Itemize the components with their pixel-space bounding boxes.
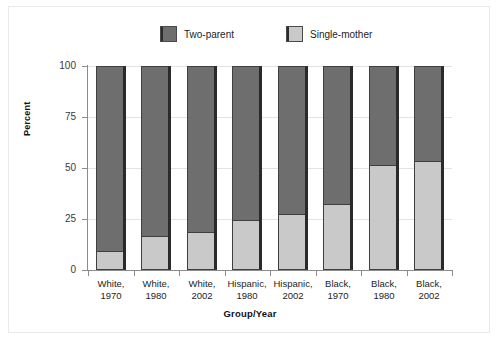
stacked-bar[interactable] [96,66,126,270]
bar-segment-single-mother[interactable] [97,251,123,269]
legend-label-two-parent: Two-parent [184,29,234,40]
bar-group[interactable] [141,66,171,270]
bar-group[interactable] [323,66,353,270]
y-tick-50 [82,168,88,169]
bar-group[interactable] [187,66,217,270]
y-tick-label-0: 0 [46,264,76,275]
bar-segment-single-mother[interactable] [188,232,214,269]
stacked-bar[interactable] [141,66,171,270]
stacked-bar[interactable] [278,66,308,270]
x-tick [361,270,362,276]
bar-group[interactable] [278,66,308,270]
chart-legend: Two-parent Single-mother [160,26,372,42]
x-axis-label: Black,2002 [401,278,457,301]
y-tick-label-75: 75 [46,111,76,122]
legend-swatch-two-parent-icon [160,26,177,42]
x-tick [270,270,271,276]
y-tick-75 [82,117,88,118]
x-tick [407,270,408,276]
bar-group[interactable] [96,66,126,270]
y-axis-title: Percent [22,102,32,136]
plot-area: 100 75 50 25 0 White,1970White,1980White… [88,66,452,270]
x-tick [88,270,89,276]
y-tick-label-25: 25 [46,213,76,224]
legend-label-single-mother: Single-mother [310,29,372,40]
bar-group[interactable] [414,66,444,270]
x-axis-title: Group/Year [0,308,500,319]
bar-segment-single-mother[interactable] [233,220,259,269]
y-tick-label-100: 100 [46,60,76,71]
stacked-bar[interactable] [323,66,353,270]
y-tick-label-50: 50 [46,162,76,173]
bar-segment-single-mother[interactable] [370,165,396,269]
bar-segment-single-mother[interactable] [279,214,305,269]
bar-group[interactable] [369,66,399,270]
y-tick-100 [82,66,88,67]
legend-swatch-single-mother-icon [286,26,303,42]
x-tick [316,270,317,276]
chart-page: Two-parent Single-mother Percent 100 75 … [0,0,500,341]
x-tick [179,270,180,276]
stacked-bar[interactable] [369,66,399,270]
stacked-bar[interactable] [414,66,444,270]
legend-item-single-mother: Single-mother [286,26,372,42]
x-tick [134,270,135,276]
stacked-bar[interactable] [232,66,262,270]
bar-segment-single-mother[interactable] [415,161,441,269]
bar-group[interactable] [232,66,262,270]
bar-segment-single-mother[interactable] [142,236,168,269]
stacked-bar[interactable] [187,66,217,270]
x-tick [225,270,226,276]
bar-segment-single-mother[interactable] [324,204,350,269]
y-tick-25 [82,219,88,220]
legend-item-two-parent: Two-parent [160,26,234,42]
x-tick [452,270,453,276]
